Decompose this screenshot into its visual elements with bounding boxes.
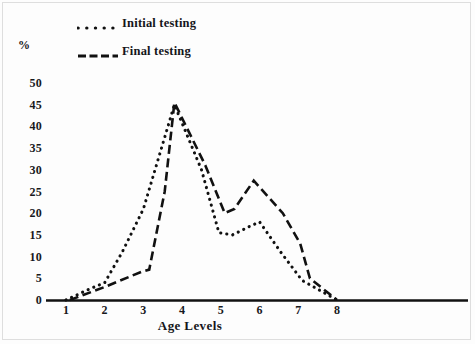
y-tick-label: 0 [18, 293, 42, 308]
y-tick-label: 25 [18, 185, 42, 200]
y-tick-label: 40 [18, 119, 42, 134]
x-tick-label: 5 [212, 303, 230, 318]
plot-area [0, 0, 475, 344]
x-tick-label: 4 [173, 303, 191, 318]
x-tick-label: 1 [57, 303, 75, 318]
x-tick-label: 2 [96, 303, 114, 318]
y-tick-label: 45 [18, 98, 42, 113]
y-tick-label: 20 [18, 206, 42, 221]
y-tick-label: 35 [18, 141, 42, 156]
x-tick-label: 3 [134, 303, 152, 318]
x-tick-label: 7 [289, 303, 307, 318]
y-tick-label: 10 [18, 250, 42, 265]
y-tick-label: 30 [18, 163, 42, 178]
series-line-initial-testing [66, 105, 337, 300]
y-tick-label: 5 [18, 271, 42, 286]
chart-figure: Initial testing Final testing % Age Leve… [0, 0, 475, 344]
y-tick-label: 50 [18, 76, 42, 91]
y-tick-label: 15 [18, 228, 42, 243]
x-tick-label: 6 [251, 303, 269, 318]
x-tick-label: 8 [328, 303, 346, 318]
series-line-final-testing [70, 103, 337, 300]
